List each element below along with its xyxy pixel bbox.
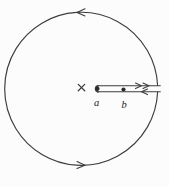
point-a-label: a <box>94 97 99 108</box>
point-a-dot <box>95 87 99 91</box>
figure-background <box>0 0 169 187</box>
contour-figure: a b <box>0 0 169 187</box>
point-b-label: b <box>121 99 126 110</box>
contour-svg: a b <box>0 0 169 187</box>
point-b-dot <box>121 87 125 91</box>
